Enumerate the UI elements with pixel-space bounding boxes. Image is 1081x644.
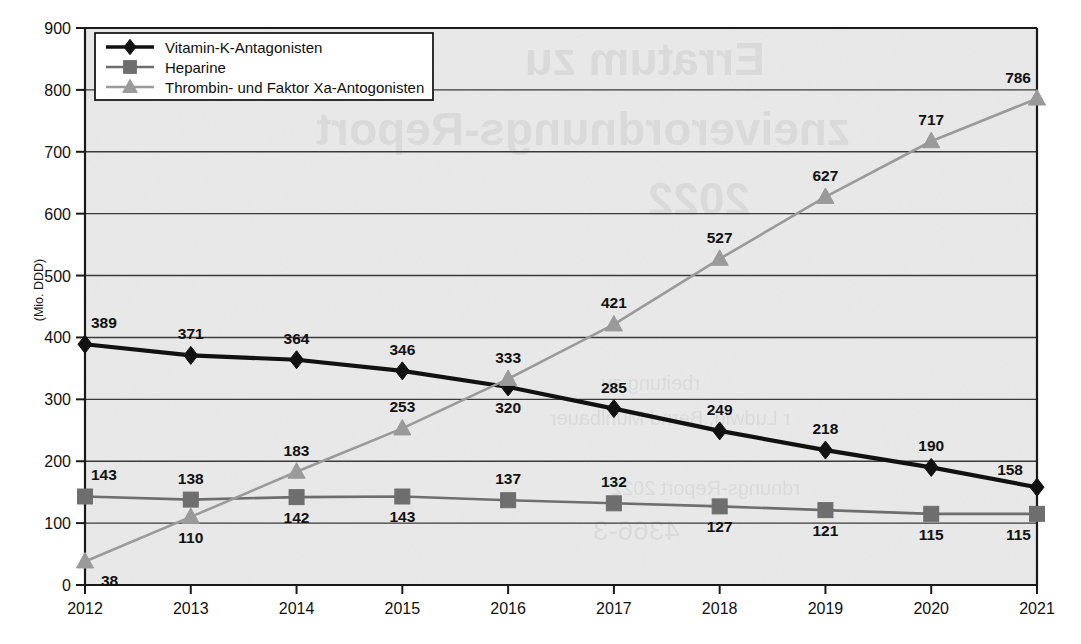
- square-marker: [924, 506, 939, 521]
- data-point-label: 143: [389, 508, 415, 525]
- square-marker: [395, 489, 410, 504]
- data-point-label: 527: [707, 229, 733, 246]
- data-point-label: 627: [813, 167, 839, 184]
- x-tick-label: 2015: [385, 600, 421, 617]
- data-point-label: 218: [813, 420, 839, 437]
- data-point-label: 389: [91, 314, 117, 331]
- square-marker: [606, 496, 621, 511]
- data-point-label: 421: [601, 294, 627, 311]
- x-tick-label: 2021: [1019, 600, 1055, 617]
- x-tick-label: 2018: [702, 600, 738, 617]
- y-axis-title: (Mio. DDD): [32, 259, 46, 322]
- data-point-label: 115: [919, 526, 944, 543]
- data-point-label: 132: [601, 473, 627, 490]
- x-tick-label: 2017: [596, 600, 632, 617]
- y-tick-label: 900: [44, 20, 71, 37]
- square-marker: [124, 61, 137, 74]
- chart-container: Erratum zu zneiverordnungs-Report 2022 r…: [0, 0, 1081, 644]
- svg-text:r Ludwig, Bernd Mühlbauer: r Ludwig, Bernd Mühlbauer: [550, 407, 790, 429]
- square-marker: [183, 492, 198, 507]
- y-tick-labels: 0100200300400500600700800900: [44, 20, 71, 594]
- x-tick-marks: [85, 585, 1037, 594]
- data-point-label: 253: [389, 398, 415, 415]
- data-point-label: 333: [495, 349, 521, 366]
- svg-text:2022: 2022: [648, 173, 750, 225]
- x-tick-label: 2016: [490, 600, 526, 617]
- data-point-label: 143: [91, 466, 117, 483]
- data-point-label: 190: [918, 437, 944, 454]
- svg-text:4366-3: 4366-3: [593, 515, 680, 546]
- y-tick-label: 700: [44, 144, 71, 161]
- svg-text:zneiverordnungs-Report: zneiverordnungs-Report: [316, 103, 850, 155]
- data-point-label: 137: [495, 470, 521, 487]
- data-point-label: 320: [495, 399, 521, 416]
- line-chart: Erratum zu zneiverordnungs-Report 2022 r…: [0, 0, 1081, 644]
- x-tick-label: 2012: [67, 600, 103, 617]
- svg-text:rdnungs-Report 2022: rdnungs-Report 2022: [611, 477, 800, 499]
- y-tick-label: 500: [44, 268, 71, 285]
- square-marker: [78, 489, 93, 504]
- square-marker: [501, 493, 516, 508]
- y-tick-label: 200: [44, 453, 71, 470]
- svg-text:Erratum zu: Erratum zu: [525, 33, 765, 85]
- data-point-label: 346: [389, 341, 415, 358]
- y-tick-label: 400: [44, 329, 71, 346]
- y-tick-label: 0: [62, 577, 71, 594]
- data-point-label: 285: [601, 379, 627, 396]
- data-point-label: 142: [284, 509, 310, 526]
- data-point-label: 183: [284, 442, 310, 459]
- data-point-label: 110: [178, 529, 203, 546]
- y-tick-label: 300: [44, 391, 71, 408]
- legend-label-1: Vitamin-K-Antagonisten: [165, 39, 322, 56]
- x-tick-label: 2020: [913, 600, 949, 617]
- square-marker: [712, 499, 727, 514]
- y-tick-label: 100: [44, 515, 71, 532]
- data-point-label: 38: [101, 572, 119, 589]
- legend-label-2: Heparine: [165, 59, 226, 76]
- data-point-label: 364: [284, 330, 310, 347]
- data-point-label: 115: [1006, 526, 1031, 543]
- square-marker: [289, 490, 304, 505]
- data-point-label: 121: [813, 522, 839, 539]
- chart-legend: Vitamin-K-AntagonistenHeparineThrombin- …: [95, 33, 433, 100]
- legend-label-3: Thrombin- und Faktor Xa-Antogonisten: [165, 79, 424, 96]
- square-marker: [1030, 506, 1045, 521]
- data-point-label: 371: [178, 325, 204, 342]
- x-tick-labels: 2012201320142015201620172018201920202021: [67, 600, 1055, 617]
- data-point-label: 138: [178, 470, 204, 487]
- square-marker: [818, 503, 833, 518]
- data-point-label: 717: [918, 111, 944, 128]
- data-point-label: 127: [707, 518, 733, 535]
- data-point-label: 786: [1005, 69, 1031, 86]
- x-tick-label: 2014: [279, 600, 315, 617]
- x-tick-label: 2013: [173, 600, 209, 617]
- data-point-label: 158: [997, 461, 1023, 478]
- y-tick-label: 800: [44, 82, 71, 99]
- x-tick-label: 2019: [808, 600, 844, 617]
- data-point-label: 249: [707, 401, 733, 418]
- y-tick-label: 600: [44, 206, 71, 223]
